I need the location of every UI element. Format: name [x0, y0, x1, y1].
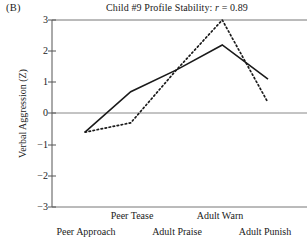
x-tick-label-peer-approach: Peer Approach: [56, 226, 115, 237]
x-tick-label-adult-praise: Adult Praise: [152, 226, 202, 237]
plot-svg: [0, 0, 307, 242]
series-line-time2: [85, 20, 268, 132]
x-tick-label-adult-warn: Adult Warn: [197, 210, 244, 221]
series-line-time1: [85, 45, 268, 132]
x-tick-label-adult-punish: Adult Punish: [239, 226, 292, 237]
x-tick-label-peer-tease: Peer Tease: [111, 210, 154, 221]
figure-panel: (B) Child #9 Profile Stability: r = 0.89…: [0, 0, 307, 242]
